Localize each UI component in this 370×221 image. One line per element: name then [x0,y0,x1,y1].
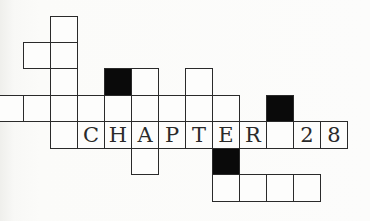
empty-cell [131,68,159,96]
empty-cell [50,95,78,122]
empty-cell [50,16,78,43]
black-cell [266,95,294,122]
letter-cell: H [104,121,132,149]
empty-cell [77,95,105,122]
letter-cell: 8 [320,121,348,149]
empty-cell [50,121,78,149]
empty-cell [131,95,159,122]
letter-cell: P [158,121,186,149]
black-cell [104,68,132,96]
empty-cell [158,95,186,122]
letter-cell: A [131,121,159,149]
empty-cell [239,174,267,202]
letter-cell: E [212,121,240,149]
empty-cell [50,68,78,96]
letter-cell: C [77,121,105,149]
letter-cell: T [185,121,213,149]
empty-cell [50,42,78,69]
letter-cell: R [239,121,267,149]
crossword-chapter-heading: CHAPTER28 [0,0,370,221]
empty-cell [266,121,294,149]
black-cell [212,148,240,175]
letter-cell: 2 [293,121,321,149]
empty-cell [104,95,132,122]
empty-cell [293,174,321,202]
empty-cell [212,174,240,202]
empty-cell [0,95,24,122]
empty-cell [266,174,294,202]
empty-cell [185,95,213,122]
empty-cell [23,42,51,69]
empty-cell [23,95,51,122]
empty-cell [185,68,213,96]
empty-cell [131,148,159,175]
empty-cell [212,95,240,122]
